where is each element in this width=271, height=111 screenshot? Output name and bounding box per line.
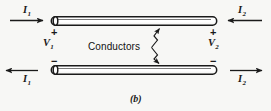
label-current-top-right: I2 (238, 5, 246, 16)
label-conductors: Conductors (88, 42, 140, 52)
transmission-line-figure: I1 I2 I1 I2 + + − − V1 V2 Conductors (b) (0, 0, 271, 111)
label-current-bottom-left: I1 (23, 74, 31, 85)
label-current-top-left: I1 (23, 5, 31, 16)
label-current-bottom-right: I2 (238, 74, 246, 85)
polarity-minus-bottom-right: − (210, 56, 216, 67)
top-conductor (51, 17, 216, 25)
polarity-plus-top-left: + (51, 27, 57, 38)
figure-caption: (b) (130, 94, 142, 104)
polarity-minus-bottom-left: − (51, 56, 57, 67)
label-voltage-right: V2 (208, 38, 219, 49)
bottom-conductor (51, 66, 216, 74)
label-voltage-left: V1 (43, 38, 54, 49)
conductors-callout-leader (152, 29, 160, 64)
